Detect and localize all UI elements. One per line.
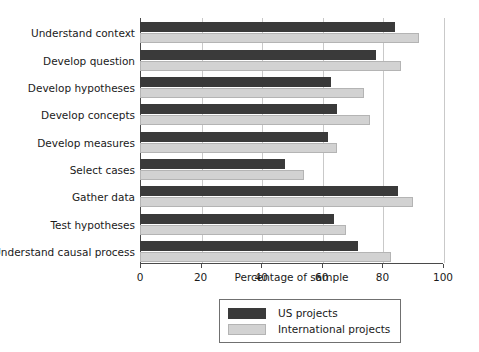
- category-label: Gather data: [72, 192, 135, 203]
- bar-us-projects: [140, 214, 334, 224]
- bar-international-projects: [140, 115, 370, 125]
- legend-label-us-projects: US projects: [278, 307, 338, 319]
- x-tick-mark: [201, 264, 202, 268]
- x-tick-mark: [261, 264, 262, 268]
- gridline: [444, 18, 445, 263]
- legend-item-us: US projects: [228, 305, 392, 321]
- bar-us-projects: [140, 22, 395, 32]
- category-label: Develop question: [43, 56, 135, 67]
- bar-us-projects: [140, 50, 376, 60]
- legend-swatch-us-projects: [228, 308, 266, 319]
- bar-international-projects: [140, 197, 413, 207]
- bar-international-projects: [140, 225, 346, 235]
- bar-us-projects: [140, 241, 358, 251]
- bar-international-projects: [140, 170, 304, 180]
- x-tick-mark: [443, 264, 444, 268]
- bar-international-projects: [140, 33, 419, 43]
- bar-international-projects: [140, 88, 364, 98]
- legend-item-international: International projects: [228, 321, 392, 337]
- category-label: Develop measures: [37, 138, 135, 149]
- bar-chart: 020406080100Understand contextDevelop qu…: [0, 0, 479, 352]
- x-tick-mark: [382, 264, 383, 268]
- category-label: Understand context: [31, 28, 135, 39]
- bar-us-projects: [140, 132, 328, 142]
- bar-us-projects: [140, 186, 398, 196]
- bar-international-projects: [140, 143, 337, 153]
- legend-label-international-projects: International projects: [278, 323, 390, 335]
- chart-legend: US projects International projects: [219, 299, 401, 343]
- x-tick-mark: [140, 264, 141, 268]
- bar-us-projects: [140, 77, 331, 87]
- bar-us-projects: [140, 159, 285, 169]
- x-tick-mark: [322, 264, 323, 268]
- bar-us-projects: [140, 104, 337, 114]
- bar-international-projects: [140, 252, 391, 262]
- category-label: Develop hypotheses: [28, 83, 135, 94]
- legend-swatch-international-projects: [228, 324, 266, 335]
- category-label: Select cases: [70, 165, 135, 176]
- gridline: [383, 18, 384, 263]
- bar-international-projects: [140, 61, 401, 71]
- category-label: Develop concepts: [41, 110, 135, 121]
- category-label: Test hypotheses: [50, 220, 135, 231]
- x-axis-label: Percentage of sample: [140, 271, 443, 283]
- category-label: Understand causal process: [0, 247, 135, 258]
